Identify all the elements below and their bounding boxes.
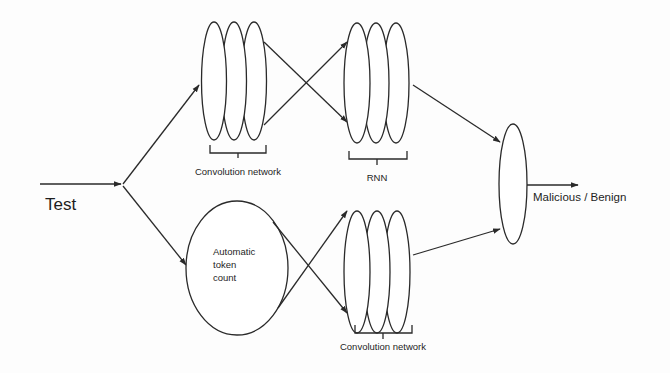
- token-count-label-line-1: Automatic: [213, 246, 255, 257]
- classifier-node: [499, 124, 527, 244]
- edge-input-to-conv-top: [123, 85, 199, 184]
- brace-conv-top: [210, 145, 266, 158]
- token-count-label-line-2: token: [213, 259, 236, 270]
- input-label: Test: [45, 195, 76, 214]
- architecture-diagram: Test Convolution network RNN Automatic t…: [0, 0, 670, 373]
- conv-network-top: [202, 22, 267, 158]
- edge-rnn-to-classifier: [413, 85, 500, 142]
- brace-conv-bottom: [355, 325, 412, 339]
- conv-top-label: Convolution network: [195, 166, 281, 177]
- edge-conv-top-to-rnn: [264, 42, 347, 125]
- token-count-label-line-3: count: [213, 272, 237, 283]
- brace-rnn: [349, 151, 407, 165]
- rnn-block: [344, 23, 409, 165]
- token-count-node: [186, 201, 288, 335]
- conv-network-bottom: [344, 211, 412, 339]
- edge-input-to-token-count: [123, 186, 186, 265]
- conv-bottom-label: Convolution network: [340, 341, 426, 352]
- edge-conv-bottom-to-classifier: [413, 229, 500, 255]
- rnn-label: RNN: [367, 172, 388, 183]
- output-label: Malicious / Benign: [533, 191, 626, 203]
